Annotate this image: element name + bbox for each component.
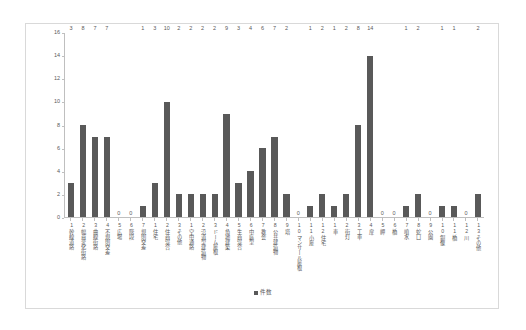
bar-slot[interactable]: 2 [472,33,484,217]
bar[interactable] [188,194,194,217]
bar-slot[interactable]: 10 [161,33,173,217]
bar[interactable] [104,137,110,218]
bar[interactable] [164,102,170,217]
x-axis-tick-mark [257,218,269,221]
bar[interactable] [80,125,86,217]
bar-slot[interactable]: 8 [352,33,364,217]
bar-slot[interactable]: 1 [448,33,460,217]
bar-slot[interactable]: 0 [292,33,304,217]
bar[interactable] [307,206,313,218]
x-axis-tick-mark [472,218,484,221]
bar[interactable] [367,56,373,217]
bar-slot[interactable]: 4 [245,33,257,217]
bar[interactable] [235,183,241,218]
x-axis-category-name: 住商混合 [164,229,170,249]
x-axis-tick-mark [185,218,197,221]
bar-value-label: 6 [261,26,264,32]
bar[interactable] [343,194,349,217]
bar-slot[interactable]: 0 [113,33,125,217]
bar-slot[interactable]: 7 [89,33,101,217]
bar-slot[interactable]: 0 [388,33,400,217]
bar-slot[interactable]: 0 [460,33,472,217]
x-axis-tick-marks [65,218,484,221]
x-axis-category-number: 7 [403,222,408,228]
bar-slot[interactable]: 0 [125,33,137,217]
bar-slot[interactable]: 0 [424,33,436,217]
x-axis-category-number: 1 [332,222,337,228]
bar[interactable] [200,194,206,217]
bar[interactable] [68,183,74,218]
bar-slot[interactable]: 1 [436,33,448,217]
bar-value-label: 2 [213,26,216,32]
x-axis-tick-mark [65,218,77,221]
bar-slot[interactable]: 3 [149,33,161,217]
bar-value-label: 9 [225,26,228,32]
x-axis-tick-mark [328,218,340,221]
x-axis-category-number: 4 [224,222,229,228]
bar-slot[interactable]: 2 [173,33,185,217]
bar-slot[interactable]: 7 [101,33,113,217]
bar-slot[interactable]: 2 [197,33,209,217]
bar-slot[interactable]: 3 [233,33,245,217]
x-axis-category-number: 6 [248,222,253,228]
x-axis-category-name: 工車 [355,229,361,239]
bar-slot[interactable]: 9 [221,33,233,217]
bar[interactable] [223,114,229,218]
y-axis-tick-label: 0 [57,215,60,221]
bar[interactable] [176,194,182,217]
bar[interactable] [140,206,146,218]
x-axis-category-number: 3 [356,222,361,228]
bar-value-label: 0 [297,211,300,217]
y-axis-tick-mark [62,195,64,196]
bar[interactable] [271,137,277,218]
bar-slot[interactable]: 2 [412,33,424,217]
x-axis-tick-mark [161,218,173,221]
x-axis-category-label: 3ドーム屋根 [209,222,221,254]
bar[interactable] [259,148,265,217]
bar-slot[interactable]: 1 [137,33,149,217]
x-axis-category-number: 1 [68,222,73,228]
x-axis-category-label: 8公共建造物 [268,222,280,254]
bar-slot[interactable]: 3 [65,33,77,217]
bar[interactable] [152,183,158,218]
bar-slot[interactable]: 0 [376,33,388,217]
bar-slot[interactable]: 1 [400,33,412,217]
bar-value-label: 3 [69,26,72,32]
bar[interactable] [247,171,253,217]
bar-value-label: 2 [345,26,348,32]
bar[interactable] [475,194,481,217]
bar[interactable] [355,125,361,217]
bar[interactable] [212,194,218,217]
bar-slot[interactable]: 7 [268,33,280,217]
bar[interactable] [319,194,325,217]
bar-slot[interactable]: 2 [340,33,352,217]
x-axis-category-label: 11橋 [448,222,460,240]
bar-value-label: 2 [321,26,324,32]
bar[interactable] [439,206,445,218]
bar-slot[interactable]: 1 [328,33,340,217]
bar[interactable] [415,194,421,217]
y-axis-tick-label: 10 [54,100,60,106]
x-axis-category-label: 9公園 [424,222,436,239]
bar-slot[interactable]: 1 [304,33,316,217]
bar-slot[interactable]: 2 [209,33,221,217]
x-axis-tick-mark [89,218,101,221]
bar[interactable] [451,206,457,218]
bar-slot[interactable]: 2 [185,33,197,217]
bar-slot[interactable]: 2 [280,33,292,217]
bar-slot[interactable]: 14 [364,33,376,217]
x-axis-category-name: 住宅 [320,235,326,245]
bar-value-label: 0 [464,211,467,217]
x-axis-category-label: 3工車 [352,222,364,239]
y-axis-tick-mark [62,172,64,173]
bar-slot[interactable]: 6 [257,33,269,217]
bar[interactable] [403,206,409,218]
y-axis-tick-label: 14 [54,53,60,59]
bar[interactable] [283,194,289,217]
x-axis-category-name: 幅員変化街路 [80,229,86,259]
bar-slot[interactable]: 8 [77,33,89,217]
bar-slot[interactable]: 2 [316,33,328,217]
bar[interactable] [92,137,98,218]
bar[interactable] [331,206,337,218]
x-axis-category-label: 8蛇口 [412,222,424,239]
